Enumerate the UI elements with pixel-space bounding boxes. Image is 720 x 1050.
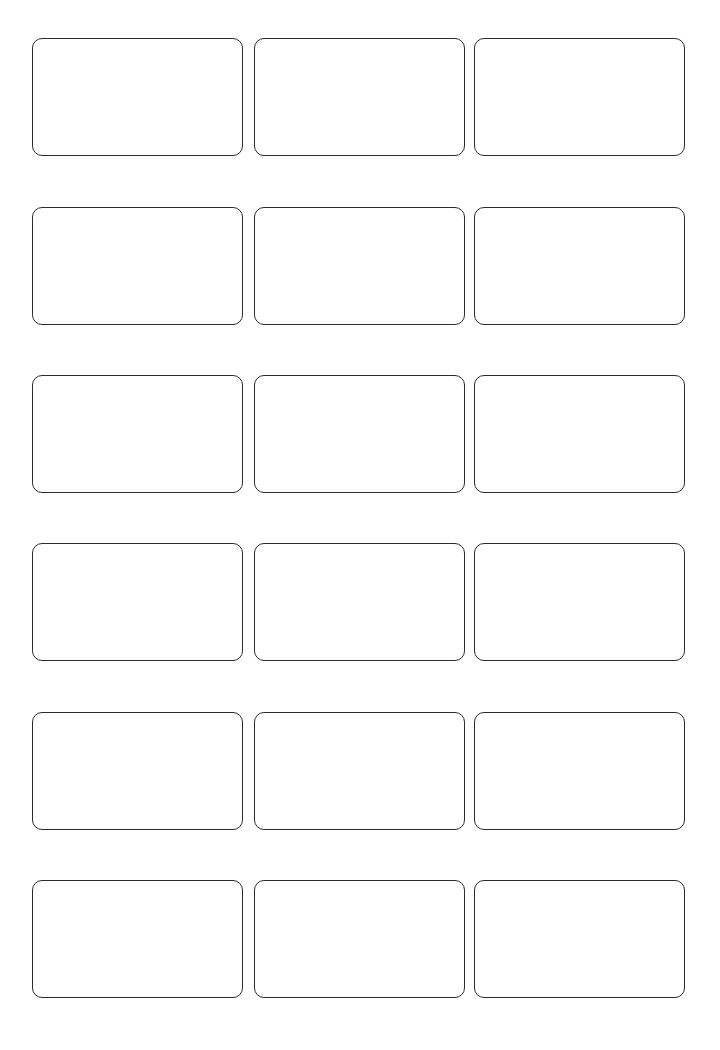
label-cell[interactable] xyxy=(254,207,465,325)
label-cell[interactable] xyxy=(474,543,685,661)
label-text xyxy=(33,39,242,155)
label-cell[interactable] xyxy=(32,543,243,661)
label-text xyxy=(33,376,242,492)
label-text xyxy=(33,881,242,997)
label-text xyxy=(255,376,464,492)
label-row xyxy=(0,880,720,998)
label-text xyxy=(475,544,684,660)
label-text xyxy=(33,713,242,829)
label-text xyxy=(33,208,242,324)
label-text xyxy=(475,713,684,829)
label-row xyxy=(0,207,720,325)
label-cell[interactable] xyxy=(32,712,243,830)
label-row xyxy=(0,38,720,156)
label-cell[interactable] xyxy=(254,38,465,156)
label-text xyxy=(255,39,464,155)
label-cell[interactable] xyxy=(474,375,685,493)
label-text xyxy=(255,208,464,324)
label-cell[interactable] xyxy=(32,207,243,325)
label-cell[interactable] xyxy=(32,375,243,493)
label-text xyxy=(475,39,684,155)
label-text xyxy=(255,544,464,660)
label-text xyxy=(475,208,684,324)
label-sheet xyxy=(0,0,720,1050)
label-cell[interactable] xyxy=(254,880,465,998)
label-cell[interactable] xyxy=(474,712,685,830)
label-text xyxy=(255,881,464,997)
label-cell[interactable] xyxy=(254,543,465,661)
label-row xyxy=(0,543,720,661)
label-cell[interactable] xyxy=(254,375,465,493)
label-row xyxy=(0,712,720,830)
label-cell[interactable] xyxy=(32,880,243,998)
label-cell[interactable] xyxy=(474,880,685,998)
label-text xyxy=(475,376,684,492)
label-cell[interactable] xyxy=(474,207,685,325)
label-cell[interactable] xyxy=(32,38,243,156)
label-text xyxy=(475,881,684,997)
label-cell[interactable] xyxy=(474,38,685,156)
label-cell[interactable] xyxy=(254,712,465,830)
label-row xyxy=(0,375,720,493)
label-text xyxy=(33,544,242,660)
label-text xyxy=(255,713,464,829)
